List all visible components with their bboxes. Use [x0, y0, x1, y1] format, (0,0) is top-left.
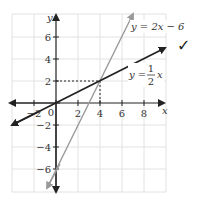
tick-x-neg2-sign: − — [27, 108, 35, 119]
tick-x-6: 6 — [119, 108, 125, 119]
tick-x-neg2: 2 — [35, 108, 41, 119]
tick-x-4: 4 — [97, 108, 103, 119]
equation-label-half-x-prefix: y = — [128, 69, 146, 80]
tick-y-6: 6 — [45, 32, 51, 43]
tick-y-neg6: −6 — [36, 164, 51, 175]
equation-label-2x-minus-6: y = 2x − 6 — [130, 21, 185, 32]
svg-text:−2: −2 — [27, 108, 42, 119]
tick-x-2: 2 — [75, 108, 81, 119]
coordinate-plane: −2 0 2 4 6 8 x 6 4 2 −2 −4 −6 y y = 2x −… — [0, 0, 198, 206]
y-axis-label: y — [46, 12, 53, 23]
checkmark-icon: ✓ — [177, 36, 190, 55]
tick-origin: 0 — [48, 107, 54, 118]
tick-y-4: 4 — [45, 54, 51, 65]
fraction-numerator: 1 — [148, 63, 154, 74]
tick-y-neg2: −2 — [36, 120, 51, 131]
tick-x-8: 8 — [141, 108, 147, 119]
x-axis-label: x — [162, 105, 168, 116]
tick-y-2: 2 — [45, 76, 51, 87]
equation-label-half-x-var: x — [157, 69, 163, 80]
tick-y-neg4: −4 — [36, 142, 51, 153]
fraction-denominator: 2 — [148, 76, 154, 87]
